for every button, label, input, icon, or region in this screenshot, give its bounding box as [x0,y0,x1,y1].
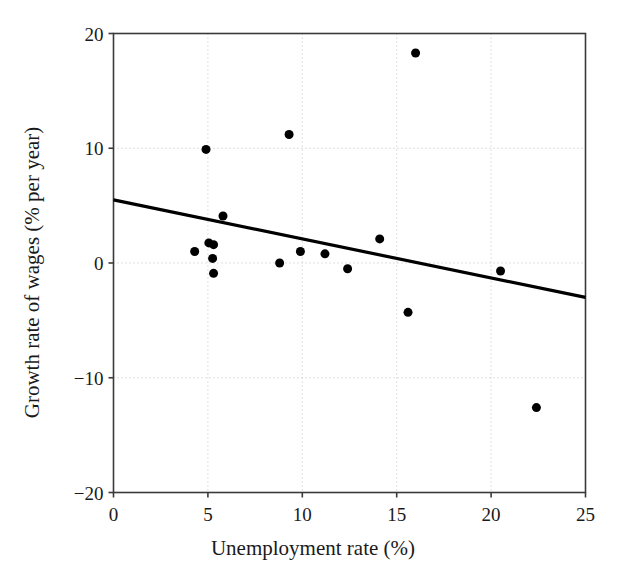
data-point [296,247,305,256]
gridlines-group [114,34,586,493]
y-tick-label: 20 [52,24,104,43]
data-point [404,308,413,317]
data-point [219,211,228,220]
data-point [285,130,294,139]
data-point [411,49,420,58]
x-tick-label: 25 [576,505,595,524]
data-point [496,267,505,276]
x-tick-label: 10 [293,505,312,524]
data-point [209,240,218,249]
data-point [209,269,218,278]
x-axis-title: Unemployment rate (%) [0,538,626,559]
data-point [320,249,329,258]
y-tick-label: −20 [52,483,104,502]
data-point [202,145,211,154]
y-tick-label: 0 [52,254,104,273]
trendline [114,200,586,298]
x-tick-label: 5 [203,505,213,524]
x-tick-label: 15 [387,505,406,524]
y-axis-title: Growth rate of wages (% per year) [22,13,43,533]
scatter-plot-figure: −20−1001020 0510152025 Unemployment rate… [0,0,626,580]
data-point [343,264,352,273]
data-point [275,259,284,268]
data-points-group [190,49,541,413]
y-tick-label: −10 [52,368,104,387]
data-point [190,247,199,256]
y-tick-label: 10 [52,139,104,158]
regression-line [114,200,586,298]
x-tick-label: 0 [109,505,119,524]
data-point [208,254,217,263]
data-point [532,403,541,412]
x-tick-label: 20 [482,505,501,524]
data-point [375,234,384,243]
